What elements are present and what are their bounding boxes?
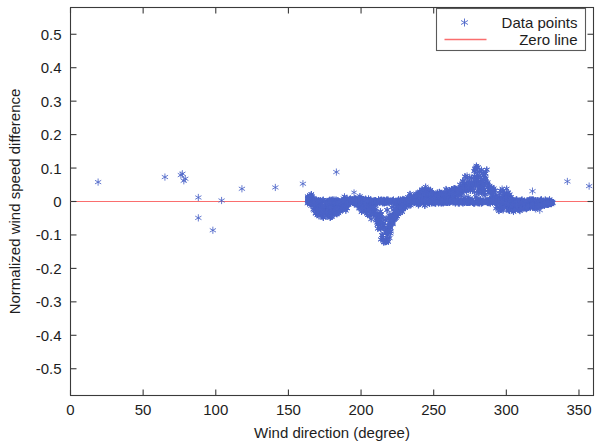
y-tick-label: 0.2: [41, 126, 62, 143]
y-tick-label: 0: [53, 193, 61, 210]
x-tick-label: 200: [349, 401, 374, 418]
scatter-plot-figure: 050100150200250300350-0.5-0.4-0.3-0.2-0.…: [0, 0, 611, 443]
x-tick-label: 300: [494, 401, 519, 418]
chart-canvas: 050100150200250300350-0.5-0.4-0.3-0.2-0.…: [0, 0, 611, 443]
y-tick-label: -0.2: [36, 260, 62, 277]
y-tick-label: -0.1: [36, 226, 62, 243]
x-tick-label: 100: [203, 401, 228, 418]
y-tick-label: -0.4: [36, 327, 62, 344]
y-tick-label: 0.3: [41, 93, 62, 110]
y-tick-label: 0.1: [41, 160, 62, 177]
x-tick-label: 150: [276, 401, 301, 418]
legend-label-data-points: Data points: [502, 14, 578, 31]
x-tick-label: 350: [566, 401, 591, 418]
chart-legend[interactable]: Data pointsZero line: [437, 9, 586, 51]
y-axis-title: Normalized wind speed difference: [6, 89, 23, 315]
y-tick-label: -0.5: [36, 360, 62, 377]
legend-label-zero-line: Zero line: [519, 31, 577, 48]
x-tick-label: 250: [421, 401, 446, 418]
x-axis-title: Wind direction (degree): [254, 424, 410, 441]
x-tick-label: 0: [66, 401, 74, 418]
y-tick-label: 0.5: [41, 26, 62, 43]
y-tick-label: -0.3: [36, 293, 62, 310]
y-tick-label: 0.4: [41, 59, 62, 76]
x-tick-label: 50: [135, 401, 152, 418]
